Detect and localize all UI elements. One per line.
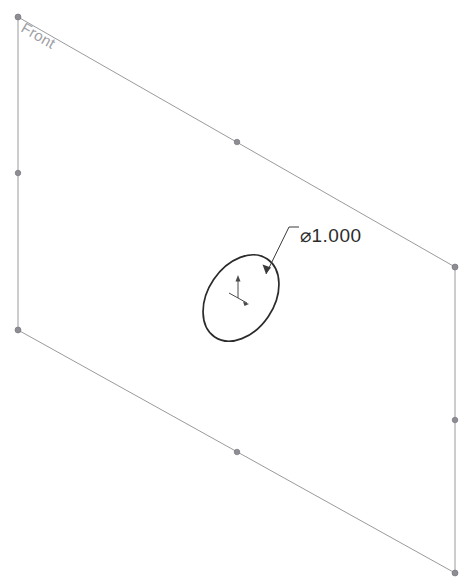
front-plane-face[interactable] — [18, 17, 455, 573]
diameter-dimension-label[interactable]: ⌀1.000 — [300, 225, 362, 246]
midpoint-handle-top[interactable] — [234, 139, 240, 145]
vertex-handle-bottom-right[interactable] — [452, 570, 458, 576]
midpoint-handle-left[interactable] — [15, 170, 21, 176]
midpoint-handle-right[interactable] — [452, 417, 458, 423]
vertex-handle-top-right[interactable] — [452, 264, 458, 270]
cad-viewport: Front ⌀1.000 — [0, 0, 463, 587]
midpoint-handle-bottom[interactable] — [234, 449, 240, 455]
vertex-handle-bottom-left[interactable] — [15, 327, 21, 333]
vertex-handle-top-left[interactable] — [15, 14, 21, 20]
cad-drawing-canvas[interactable]: Front ⌀1.000 — [0, 0, 463, 587]
